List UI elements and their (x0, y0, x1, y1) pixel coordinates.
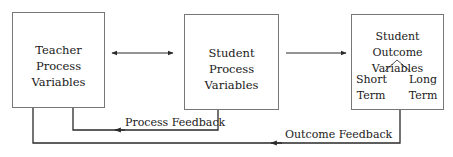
student-outcome-line1: Student Outcome (352, 29, 443, 61)
long-term-label: Long Term (407, 72, 439, 104)
student-outcome-label: Student Outcome Variables (352, 29, 443, 77)
student-outcome-box: Student Outcome Variables Short Term Lon… (351, 14, 444, 110)
student-process-box: Student Process Variables (184, 14, 279, 110)
long-term-line1: Long (407, 72, 439, 88)
short-term-label: Short Term (356, 72, 386, 104)
teacher-process-box: Teacher Process Variables (12, 12, 105, 108)
student-process-label: Student Process Variables (185, 45, 278, 93)
outcome-feedback-label: Outcome Feedback (285, 128, 392, 142)
long-term-line2: Term (407, 88, 439, 104)
student-process-line1: Student Process (185, 45, 278, 77)
student-process-line2: Variables (185, 77, 278, 93)
teacher-process-line1: Teacher Process (13, 42, 104, 74)
process-feedback-label: Process Feedback (125, 116, 225, 130)
teacher-process-line2: Variables (13, 74, 104, 90)
short-term-line2: Term (356, 88, 386, 104)
teacher-process-label: Teacher Process Variables (13, 42, 104, 90)
short-term-line1: Short (356, 72, 386, 88)
